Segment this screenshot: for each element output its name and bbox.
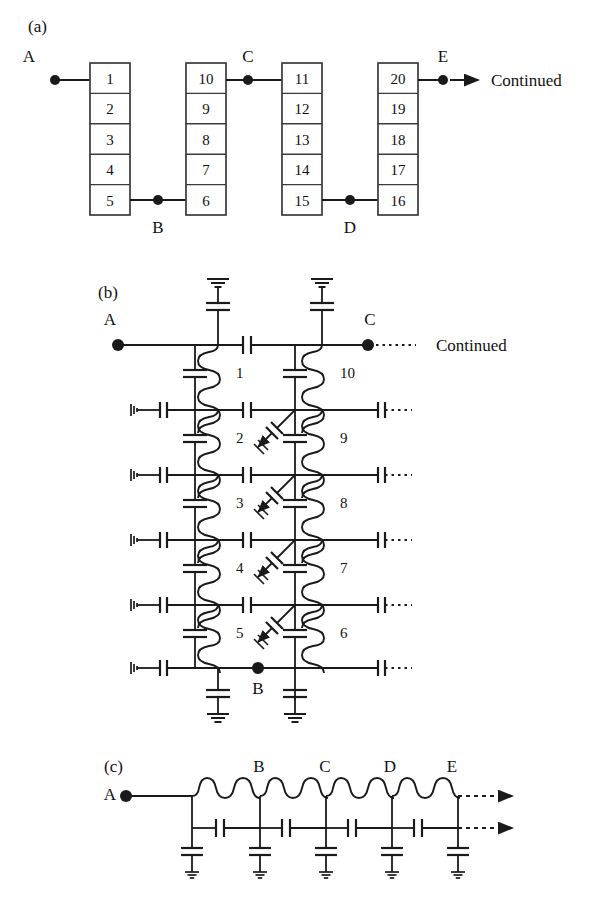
panel-c-node-label-B: B <box>253 757 264 776</box>
stack-3-cell: 11 <box>295 71 309 87</box>
panel-b-tunable-capacitor-4 <box>254 605 295 649</box>
stack-4-cell: 20 <box>391 71 406 87</box>
panel-a-label: (a) <box>28 17 47 36</box>
panel-a-continued-label: Continued <box>491 71 562 90</box>
panel-a-node-label-D: D <box>344 218 356 237</box>
panel-a-stack-3: 11 12 13 14 15 <box>282 63 322 215</box>
panel-c-shunt-capacitor-4 <box>381 828 403 878</box>
panel-b-bottom-ground-left <box>206 668 230 722</box>
stack-4-cell: 16 <box>391 193 407 209</box>
stack-2-cell: 9 <box>202 101 210 117</box>
panel-b-tunable-capacitor-3 <box>254 540 295 584</box>
panel-b-left-rail <box>183 345 207 668</box>
stack-2-cell: 8 <box>202 132 210 148</box>
panel-c-node-label-E: E <box>447 757 457 776</box>
circuit-figure: (a) A 1 2 3 4 5 B 10 <box>0 0 606 897</box>
panel-a-node-label-E: E <box>438 47 448 66</box>
panel-b-left-coil-label: 2 <box>236 430 244 446</box>
stack-1-cell: 1 <box>106 71 114 87</box>
panel-c-node-label-D: D <box>384 757 396 776</box>
panel-a-stack-1: 1 2 3 4 5 <box>90 63 130 215</box>
panel-c: (c) A B C D E <box>104 757 512 878</box>
panel-b-row-2 <box>131 402 412 418</box>
stack-4-cell: 18 <box>391 132 406 148</box>
stack-2-cell: 7 <box>202 162 210 178</box>
panel-c-node-label-C: C <box>319 757 330 776</box>
panel-b-tunable-capacitor-2 <box>254 475 295 519</box>
panel-a-node-label-A: A <box>23 47 36 66</box>
stack-1-cell: 4 <box>106 162 114 178</box>
panel-a-node-dot-C <box>243 75 253 85</box>
panel-b-continued-label: Continued <box>436 336 507 355</box>
panel-b-right-coil-label: 10 <box>340 365 355 381</box>
panel-a-stack-4: 20 19 18 17 16 <box>378 63 418 215</box>
panel-b-tunable-capacitor-1 <box>254 410 295 454</box>
stack-3-cell: 13 <box>295 132 310 148</box>
panel-a: (a) A 1 2 3 4 5 B 10 <box>23 17 562 237</box>
panel-b-row-5 <box>131 597 412 613</box>
stack-1-cell: 3 <box>106 132 114 148</box>
panel-a-node-label-C: C <box>242 47 253 66</box>
stack-3-cell: 15 <box>295 193 310 209</box>
panel-c-shunt-capacitor-2 <box>249 828 271 878</box>
panel-c-inductors <box>192 778 460 798</box>
panel-c-shunt-capacitor-1 <box>181 828 203 878</box>
panel-c-label: (c) <box>104 757 123 776</box>
panel-b-left-inductor <box>198 345 220 673</box>
stack-1-cell: 2 <box>106 101 114 117</box>
panel-c-node-drops <box>192 796 458 828</box>
panel-b-node-dot-C <box>362 339 374 351</box>
panel-b-left-coil-label: 3 <box>236 495 244 511</box>
panel-b-node-label-A: A <box>104 310 117 329</box>
panel-b-right-coil-label: 9 <box>340 430 348 446</box>
figure-root: (a) A 1 2 3 4 5 B 10 <box>0 0 606 897</box>
panel-c-series-capacitors <box>192 819 458 837</box>
panel-b-row-6: B <box>131 660 412 698</box>
stack-4-cell: 19 <box>391 101 406 117</box>
stack-2-cell: 6 <box>202 193 210 209</box>
tuning-arrow-icon <box>258 563 272 577</box>
panel-a-stack-2: 10 9 8 7 6 <box>186 63 226 215</box>
panel-b-left-coil-label: 1 <box>236 365 244 381</box>
panel-b-top-ground-right <box>310 279 334 345</box>
tuning-arrow-icon <box>258 433 272 447</box>
stack-3-cell: 14 <box>295 162 311 178</box>
panel-b-row-1 <box>118 336 368 354</box>
panel-b: (b) A C Continued <box>98 279 507 722</box>
panel-b-node-dot-B <box>252 662 264 674</box>
tuning-arrow-icon <box>258 498 272 512</box>
panel-c-node-label-A: A <box>104 785 117 804</box>
panel-b-right-coil-label: 6 <box>340 625 348 641</box>
panel-b-left-coil-label: 4 <box>236 560 244 576</box>
panel-a-node-label-B: B <box>152 218 163 237</box>
stack-1-cell: 5 <box>106 193 114 209</box>
panel-a-node-dot-E <box>438 75 448 85</box>
panel-b-label: (b) <box>98 283 118 302</box>
panel-b-node-label-B: B <box>252 679 263 698</box>
panel-c-shunt-capacitor-5 <box>447 828 469 878</box>
panel-b-top-ground-left <box>206 279 230 345</box>
stack-2-cell: 10 <box>199 71 214 87</box>
panel-c-shunt-capacitor-3 <box>315 828 337 878</box>
panel-b-row-4 <box>131 532 412 548</box>
panel-b-right-coil-label: 8 <box>340 495 348 511</box>
panel-b-row-3 <box>131 467 412 483</box>
panel-b-left-coil-label: 5 <box>236 625 244 641</box>
panel-b-right-coil-label: 7 <box>340 560 348 576</box>
tuning-arrow-icon <box>258 628 272 642</box>
panel-b-right-inductor <box>302 345 324 673</box>
stack-3-cell: 12 <box>295 101 310 117</box>
stack-4-cell: 17 <box>391 162 407 178</box>
panel-a-node-dot-D <box>345 195 355 205</box>
panel-b-node-label-C: C <box>364 310 375 329</box>
panel-a-node-dot-B <box>153 195 163 205</box>
